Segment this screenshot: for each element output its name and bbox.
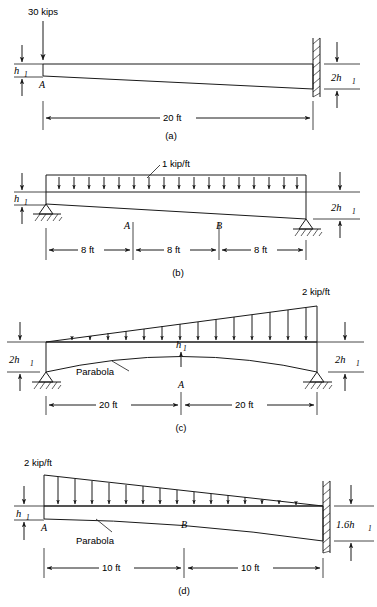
panel-a-fixed-support bbox=[313, 38, 320, 97]
panel-b: 1 kip/ft bbox=[14, 158, 360, 278]
panel-a-span-label: 20 ft bbox=[163, 112, 182, 123]
panel-d-fixed-support bbox=[323, 481, 330, 553]
panel-d-point-label-B: B bbox=[181, 519, 187, 530]
panel-c-parabola-callout: Parabola bbox=[76, 361, 129, 377]
panel-a-caption: (a) bbox=[165, 130, 177, 141]
panel-d-right-depth-label: 1.6h bbox=[336, 519, 354, 530]
figure-root: 30 kips bbox=[0, 0, 377, 607]
panel-b-left-depth-sub: 1 bbox=[24, 198, 28, 207]
panel-d-left-depth-label: h bbox=[16, 508, 21, 519]
panel-c-mid-depth-dimension: h 1 bbox=[176, 339, 187, 367]
panel-b-load-leader bbox=[147, 165, 160, 178]
panel-a-left-depth-label: h bbox=[14, 65, 19, 76]
panel-b-span-label-2: 8 ft bbox=[167, 244, 181, 255]
panel-c-caption: (c) bbox=[175, 422, 186, 433]
panel-d-span-label-1: 10 ft bbox=[102, 562, 121, 573]
panel-b-left-depth-dimension: h 1 bbox=[14, 173, 46, 224]
panel-b-span-label-3: 8 ft bbox=[254, 244, 268, 255]
panel-d-left-depth-dimension: h 1 bbox=[14, 486, 44, 540]
panel-d-left-depth-sub: 1 bbox=[26, 513, 30, 522]
panel-d-parabola-label: Parabola bbox=[76, 535, 115, 546]
panel-b-span-dimensions: 8 ft 8 ft 8 ft bbox=[46, 222, 306, 260]
panel-d-caption: (d) bbox=[178, 585, 190, 596]
panel-c-span-label-1: 20 ft bbox=[99, 399, 118, 410]
panel-c-point-label-A: A bbox=[177, 379, 185, 390]
panel-a-beam bbox=[43, 64, 313, 89]
panel-d-triangular-load bbox=[44, 475, 323, 506]
panel-c-load-label: 2 kip/ft bbox=[302, 286, 330, 297]
panel-d-right-depth-sub: 1 bbox=[368, 524, 372, 533]
panel-c-right-depth-sub: 1 bbox=[356, 359, 360, 368]
panel-d: 2 kip/ft bbox=[14, 457, 374, 596]
panel-d-parabola-callout: Parabola bbox=[76, 519, 115, 546]
panel-b-beam bbox=[46, 192, 306, 219]
panel-b-span-label-1: 8 ft bbox=[81, 244, 95, 255]
panel-a-right-depth-dimension: 2h 1 bbox=[324, 42, 360, 108]
panel-a: 30 kips bbox=[14, 6, 360, 141]
panel-b-right-depth-label: 2h bbox=[331, 202, 342, 213]
panel-a-right-depth-label: 2h bbox=[331, 72, 342, 83]
panel-d-span-dimensions: 10 ft 10 ft bbox=[44, 548, 323, 578]
panel-c-triangular-load bbox=[46, 306, 317, 342]
panel-c: 2 kip/ft bbox=[7, 286, 364, 433]
panel-a-load-label: 30 kips bbox=[28, 6, 58, 17]
panel-d-span-label-2: 10 ft bbox=[241, 562, 260, 573]
panel-b-right-support bbox=[293, 219, 322, 236]
panel-a-left-depth-sub: 1 bbox=[24, 70, 28, 79]
panel-b-load-label: 1 kip/ft bbox=[162, 158, 190, 169]
panel-a-right-depth-sub: 1 bbox=[352, 77, 356, 86]
panel-b-caption: (b) bbox=[172, 267, 184, 278]
panel-d-point-label-A: A bbox=[40, 522, 48, 533]
panel-c-right-depth-dimension: 2h 1 bbox=[317, 322, 364, 391]
panel-b-point-label-A: A bbox=[123, 220, 131, 231]
panel-b-uniform-load bbox=[46, 175, 306, 192]
panel-d-load-label: 2 kip/ft bbox=[24, 457, 52, 468]
panel-c-parabola-label: Parabola bbox=[76, 366, 115, 377]
panel-a-point-label-A: A bbox=[38, 79, 46, 90]
panel-c-left-depth-sub: 1 bbox=[30, 359, 34, 368]
panel-b-left-support bbox=[33, 204, 62, 221]
panel-c-mid-depth-label: h bbox=[176, 339, 181, 350]
panel-c-mid-depth-sub: 1 bbox=[183, 344, 187, 353]
panel-b-right-depth-dimension: 2h 1 bbox=[306, 172, 360, 238]
beam-diagrams-figure: 30 kips bbox=[0, 0, 377, 607]
panel-c-left-depth-label: 2h bbox=[9, 354, 20, 365]
panel-c-span-label-2: 20 ft bbox=[235, 399, 254, 410]
panel-d-right-depth-dimension: 1.6h 1 bbox=[334, 485, 374, 561]
panel-c-right-depth-label: 2h bbox=[335, 354, 346, 365]
panel-c-right-support bbox=[303, 372, 332, 389]
panel-b-right-depth-sub: 1 bbox=[352, 207, 356, 216]
panel-c-span-dimensions: 20 ft 20 ft bbox=[46, 392, 317, 415]
panel-a-span-dimension: 20 ft bbox=[43, 101, 313, 130]
panel-b-left-depth-label: h bbox=[14, 193, 19, 204]
panel-c-left-support bbox=[32, 372, 61, 389]
